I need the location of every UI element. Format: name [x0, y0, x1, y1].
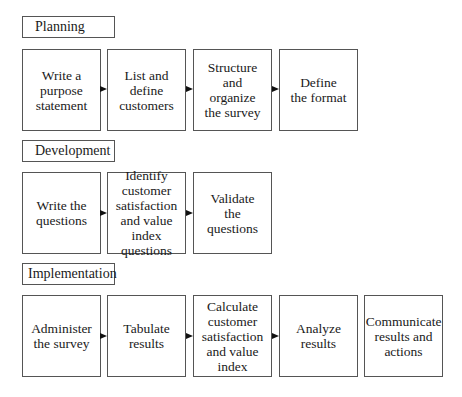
- arrow-right-icon: [186, 332, 193, 340]
- arrow-right-icon: [100, 209, 107, 217]
- section-label-development: Development: [22, 140, 115, 162]
- step-structure-organize-survey: Structure and organize the survey: [193, 49, 272, 131]
- arrow-right-icon: [186, 85, 193, 93]
- step-define-format: Define the format: [279, 49, 358, 131]
- arrow-right-icon: [186, 209, 193, 217]
- step-administer-survey: Administer the survey: [22, 295, 101, 377]
- step-analyze-results: Analyze results: [279, 295, 358, 377]
- step-write-purpose-statement: Write a purpose statement: [22, 49, 101, 131]
- step-tabulate-results: Tabulate results: [107, 295, 186, 377]
- step-list-define-customers: List and define customers: [107, 49, 186, 131]
- step-identify-questions: Identify customer satisfaction and value…: [107, 172, 186, 254]
- arrow-right-icon: [272, 332, 279, 340]
- step-write-questions: Write the questions: [22, 172, 101, 254]
- step-communicate-results: Communicate results and actions: [364, 295, 443, 377]
- arrow-right-icon: [272, 85, 279, 93]
- section-label-implementation: Implementation: [22, 263, 115, 285]
- arrow-right-icon: [100, 85, 107, 93]
- arrow-right-icon: [100, 332, 107, 340]
- step-validate-questions: Validate the questions: [193, 172, 272, 254]
- step-calculate-index: Calculate customer satisfaction and valu…: [193, 295, 272, 377]
- section-label-planning: Planning: [22, 16, 115, 38]
